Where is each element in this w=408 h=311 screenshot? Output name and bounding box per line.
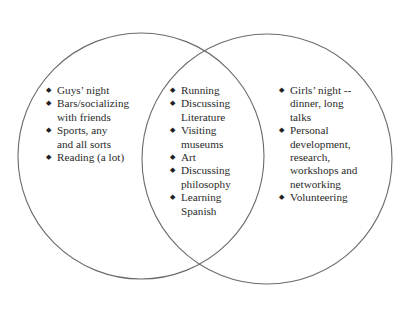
list-item: ◆Personal development, research, worksho… <box>279 124 361 191</box>
diamond-bullet-icon: ◆ <box>279 124 284 137</box>
list-item: ◆Art <box>170 151 236 164</box>
list-item: ◆Discussing philosophy <box>170 164 236 191</box>
left-only-list: ◆Guys’ night ◆Bars/socializing with frie… <box>46 84 126 164</box>
shared-list: ◆Running ◆Discussing Literature ◆Visitin… <box>170 84 236 218</box>
diamond-bullet-icon: ◆ <box>279 84 284 97</box>
diamond-bullet-icon: ◆ <box>46 151 51 164</box>
diamond-bullet-icon: ◆ <box>279 191 284 204</box>
diamond-bullet-icon: ◆ <box>46 84 51 97</box>
diamond-bullet-icon: ◆ <box>170 84 175 97</box>
right-only-list: ◆Girls’ night -- dinner, long talks ◆Per… <box>279 84 361 205</box>
list-item: ◆Running <box>170 84 236 97</box>
list-item: ◆Guys’ night <box>46 84 126 97</box>
diamond-bullet-icon: ◆ <box>170 151 175 164</box>
diamond-bullet-icon: ◆ <box>46 97 51 110</box>
list-item: ◆Sports, any and all sorts <box>46 124 126 151</box>
diamond-bullet-icon: ◆ <box>170 124 175 137</box>
list-item: ◆Visiting museums <box>170 124 236 151</box>
diamond-bullet-icon: ◆ <box>170 191 175 204</box>
list-item: ◆Learning Spanish <box>170 191 236 218</box>
diamond-bullet-icon: ◆ <box>170 97 175 110</box>
list-item: ◆Discussing Literature <box>170 97 236 124</box>
list-item: ◆Girls’ night -- dinner, long talks <box>279 84 361 124</box>
diamond-bullet-icon: ◆ <box>46 124 51 137</box>
list-item: ◆Bars/socializing with friends <box>46 97 126 124</box>
list-item: ◆Reading (a lot) <box>46 151 126 164</box>
list-item: ◆Volunteering <box>279 191 361 204</box>
diamond-bullet-icon: ◆ <box>170 164 175 177</box>
